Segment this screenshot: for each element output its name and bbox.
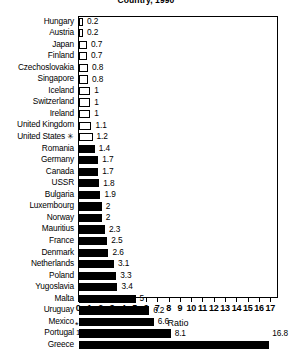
x-axis-tick bbox=[225, 298, 226, 302]
category-label: Japan bbox=[0, 39, 74, 50]
x-axis-tick bbox=[89, 298, 90, 302]
bar-row: Austria0.2 bbox=[0, 28, 292, 40]
x-axis-tick bbox=[112, 298, 113, 302]
bar bbox=[79, 272, 116, 280]
category-label: Germany bbox=[0, 154, 74, 165]
bar-value-label: 8.1 bbox=[175, 328, 186, 339]
bar bbox=[79, 75, 88, 83]
category-label: Poland bbox=[0, 270, 74, 281]
chart-title: Country, 1990 bbox=[0, 0, 292, 5]
x-axis-tick bbox=[101, 298, 102, 302]
bar bbox=[79, 237, 107, 245]
bar-row: Poland3.3 bbox=[0, 270, 292, 282]
x-axis-tick bbox=[146, 298, 147, 302]
category-label: United Kingdom bbox=[0, 119, 74, 130]
category-label: Bulgaria bbox=[0, 189, 74, 200]
bar-row: Netherlands3.1 bbox=[0, 259, 292, 271]
bar bbox=[79, 249, 108, 257]
bar-row: United States ✳1.2 bbox=[0, 132, 292, 144]
bar-value-label: 1.4 bbox=[99, 143, 110, 154]
bar bbox=[79, 202, 102, 210]
bar-value-label: 1 bbox=[94, 108, 99, 119]
bar-value-label: 1.7 bbox=[102, 154, 113, 165]
bar-row: Germany1.7 bbox=[0, 155, 292, 167]
x-axis-tick bbox=[259, 298, 260, 302]
bar-row: USSR1.8 bbox=[0, 178, 292, 190]
x-axis-tick-labels: 01234567891011121314151617 bbox=[0, 303, 292, 315]
category-label: Portugal bbox=[0, 327, 74, 338]
bar-value-label: 2.6 bbox=[112, 247, 123, 258]
bar-row: Switzerland1 bbox=[0, 97, 292, 109]
bar bbox=[79, 191, 100, 199]
bar bbox=[79, 260, 114, 268]
bar-value-label: 2.3 bbox=[109, 224, 120, 235]
category-label: Singapore bbox=[0, 73, 74, 84]
bar-row: Finland0.7 bbox=[0, 51, 292, 63]
category-label: Czechoslovakia bbox=[0, 62, 74, 73]
bar-row: Singapore0.8 bbox=[0, 74, 292, 86]
bar bbox=[79, 41, 87, 49]
x-axis-tick bbox=[270, 298, 271, 302]
bar-row: France2.5 bbox=[0, 235, 292, 247]
bar bbox=[79, 283, 117, 291]
category-label: Mexico bbox=[0, 316, 74, 327]
x-axis-tick bbox=[78, 298, 79, 302]
bar-row: Hungary0.2 bbox=[0, 16, 292, 28]
bar-row: Ireland1 bbox=[0, 108, 292, 120]
bar-value-label: 0.7 bbox=[91, 39, 102, 50]
bar bbox=[79, 87, 90, 95]
category-label: Finland bbox=[0, 50, 74, 61]
bar bbox=[79, 64, 88, 72]
bar-value-label: 2 bbox=[106, 201, 111, 212]
bar-row: Romania1.4 bbox=[0, 143, 292, 155]
bar bbox=[79, 214, 102, 222]
bar-row: Iceland1 bbox=[0, 85, 292, 97]
category-label: Denmark bbox=[0, 247, 74, 258]
bar bbox=[79, 18, 83, 26]
category-label: France bbox=[0, 235, 74, 246]
category-label: USSR bbox=[0, 177, 74, 188]
bar-chart-figure: Country, 1990 Hungary0.2Austria0.2Japan0… bbox=[0, 0, 292, 349]
bar bbox=[79, 341, 269, 349]
bar-row: Canada1.7 bbox=[0, 166, 292, 178]
bar-value-label: 1 bbox=[94, 97, 99, 108]
category-label: Greece bbox=[0, 339, 74, 349]
x-axis-tick bbox=[214, 298, 215, 302]
x-axis-tick bbox=[135, 298, 136, 302]
bar-value-label: 1.9 bbox=[104, 189, 115, 200]
x-axis-tick bbox=[180, 298, 181, 302]
category-label: Netherlands bbox=[0, 258, 74, 269]
category-label: Mauritius bbox=[0, 223, 74, 234]
x-axis-tick bbox=[236, 298, 237, 302]
bar-value-label: 16.8 bbox=[272, 328, 288, 339]
footnote: * 1989 data. bbox=[76, 322, 114, 338]
bar bbox=[79, 179, 99, 187]
bar-row: Portugal8.1 bbox=[0, 328, 292, 340]
bar-row: Denmark2.6 bbox=[0, 247, 292, 259]
bar bbox=[79, 145, 95, 153]
x-axis-tick bbox=[123, 298, 124, 302]
bar-rows-container: Hungary0.2Austria0.2Japan0.7Finland0.7Cz… bbox=[0, 16, 292, 298]
bar-value-label: 1.2 bbox=[97, 131, 108, 142]
bar-row: Bulgaria1.9 bbox=[0, 189, 292, 201]
bar-row: Mauritius2.3 bbox=[0, 224, 292, 236]
category-label: Austria bbox=[0, 27, 74, 38]
bar-row: Greece16.8 bbox=[0, 339, 292, 349]
bar-value-label: 2.5 bbox=[111, 235, 122, 246]
bar bbox=[79, 168, 98, 176]
footnote-marker-icon: ✳ bbox=[65, 132, 74, 141]
category-label: Canada bbox=[0, 166, 74, 177]
x-axis-tick-label: 17 bbox=[263, 303, 277, 314]
bar bbox=[79, 52, 87, 60]
bar-value-label: 0.8 bbox=[92, 62, 103, 73]
category-label: Norway bbox=[0, 212, 74, 223]
category-label: Iceland bbox=[0, 85, 74, 96]
bar-value-label: 3.4 bbox=[121, 281, 132, 292]
bar-value-label: 1.8 bbox=[103, 178, 114, 189]
bar-row: Luxembourg2 bbox=[0, 201, 292, 213]
category-label: Ireland bbox=[0, 108, 74, 119]
bar-value-label: 0.2 bbox=[87, 27, 98, 38]
bar bbox=[79, 29, 83, 37]
category-label: Luxembourg bbox=[0, 200, 74, 211]
bar bbox=[79, 98, 90, 106]
